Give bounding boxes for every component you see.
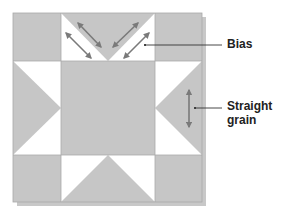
flying-geese-right (155, 61, 202, 155)
flying-geese-left (13, 61, 61, 155)
corner-top-left (13, 13, 61, 61)
straight-grain-label-line1: Straight (227, 100, 272, 113)
bias-label: Bias (227, 38, 252, 51)
center-square (61, 61, 155, 155)
flying-geese-top (61, 13, 155, 61)
corner-top-right (155, 13, 202, 61)
flying-geese-bottom (61, 155, 155, 202)
corner-bottom-left (13, 155, 61, 202)
corner-bottom-right (155, 155, 202, 202)
straight-grain-label-line2: grain (227, 114, 256, 127)
